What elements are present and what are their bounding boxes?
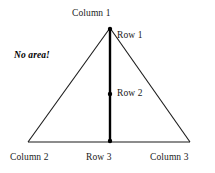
node-marker-apex bbox=[108, 27, 112, 31]
label-column-1: Column 1 bbox=[72, 8, 111, 19]
node-marker-base bbox=[108, 139, 112, 143]
label-no-area: No area! bbox=[14, 50, 50, 61]
label-column-3: Column 3 bbox=[150, 152, 189, 163]
triangle-left-edge bbox=[28, 28, 110, 142]
label-column-2: Column 2 bbox=[10, 152, 49, 163]
label-row-2: Row 2 bbox=[117, 88, 143, 99]
triangle-diagram-graphic bbox=[0, 0, 215, 173]
node-marker-middle bbox=[108, 92, 112, 96]
triangle-right-edge bbox=[110, 28, 190, 142]
label-row-1: Row 1 bbox=[117, 30, 143, 41]
label-row-3: Row 3 bbox=[86, 152, 112, 163]
diagram-canvas: Column 1 Row 1 No area! Row 2 Column 2 R… bbox=[0, 0, 215, 173]
